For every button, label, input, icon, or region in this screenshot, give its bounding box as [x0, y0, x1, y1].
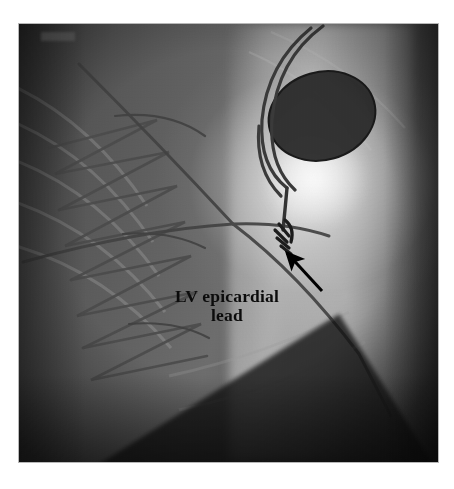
annotation-label-line-1: LV epicardial — [107, 287, 347, 306]
film-grain — [19, 24, 438, 462]
figure-root: LV epicardial lead — [0, 0, 454, 489]
annotation-label-line-2: lead — [107, 306, 347, 325]
xray-image: LV epicardial lead — [19, 24, 438, 462]
